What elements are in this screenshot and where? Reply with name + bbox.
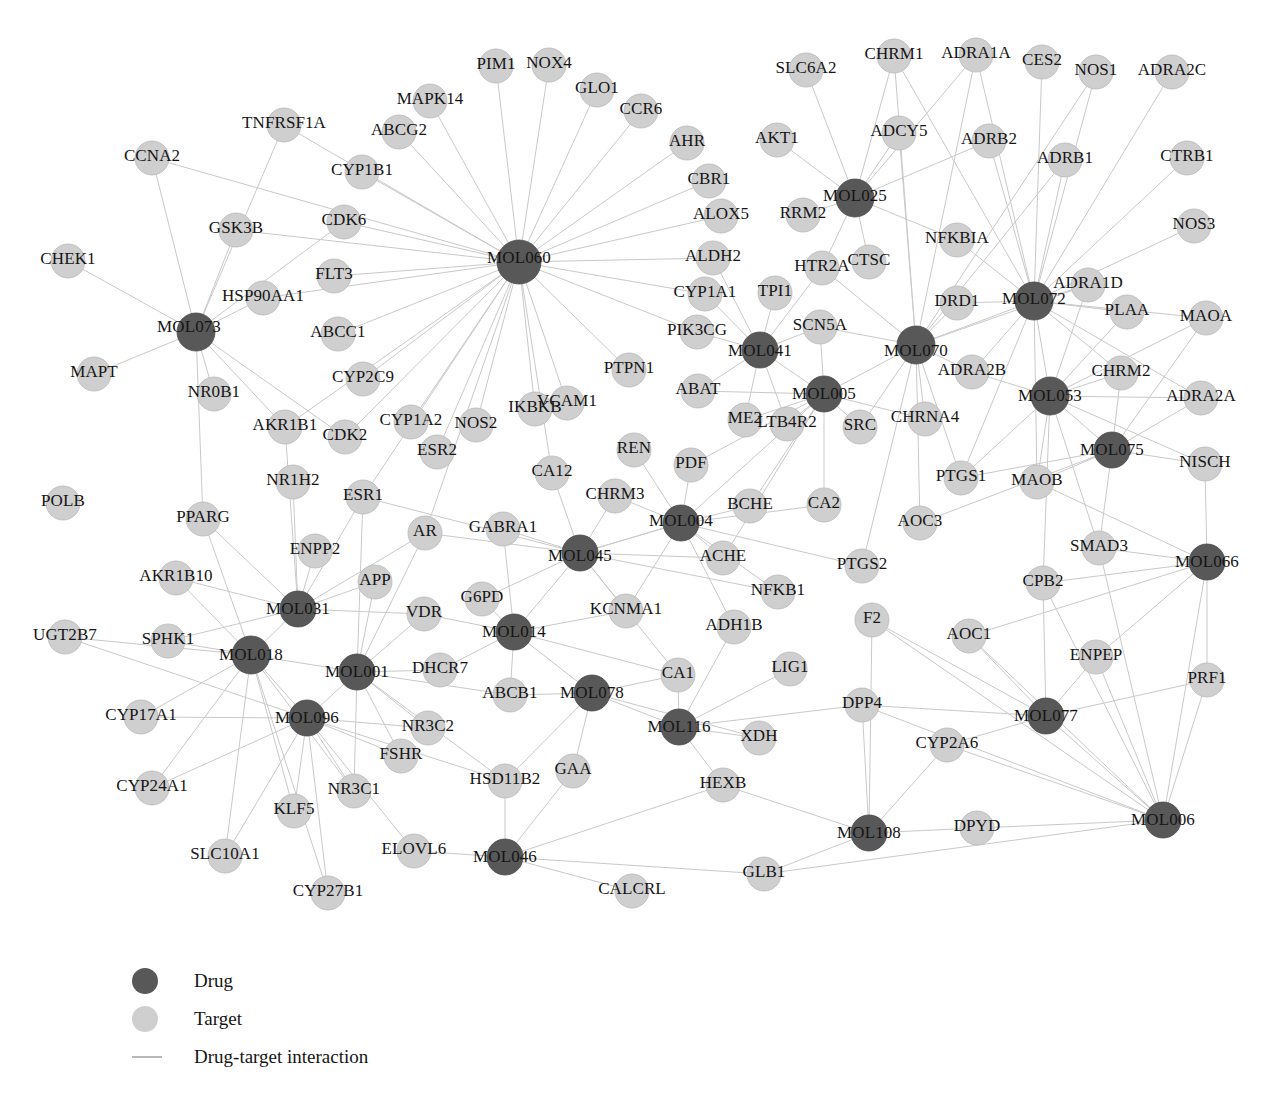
target-node-ADRB2[interactable] [972, 124, 1006, 158]
target-node-HEXB[interactable] [706, 768, 740, 802]
target-node-NOS2[interactable] [459, 408, 493, 442]
target-node-ADRA1D[interactable] [1071, 268, 1105, 302]
drug-node-MOL078[interactable] [574, 675, 610, 711]
target-node-ADRA2A[interactable] [1184, 381, 1218, 415]
target-node-ENPP2[interactable] [298, 534, 332, 568]
drug-node-MOL073[interactable] [177, 313, 215, 351]
drug-node-MOL077[interactable] [1028, 698, 1064, 734]
target-node-CYP24A1[interactable] [135, 771, 169, 805]
target-node-MAOB[interactable] [1020, 465, 1054, 499]
drug-node-MOL116[interactable] [661, 709, 697, 745]
target-node-CCNA2[interactable] [135, 141, 169, 175]
target-node-G6PD[interactable] [465, 582, 499, 616]
target-node-CYP2A6[interactable] [930, 728, 964, 762]
target-node-CYP27B1[interactable] [311, 876, 345, 910]
target-node-AR[interactable] [408, 516, 442, 550]
target-node-RRM2[interactable] [786, 198, 820, 232]
drug-node-MOL108[interactable] [851, 815, 887, 851]
target-node-SMAD3[interactable] [1082, 531, 1116, 565]
target-node-MAPK14[interactable] [413, 84, 447, 118]
drug-node-MOL006[interactable] [1145, 802, 1181, 838]
drug-node-MOL045[interactable] [562, 535, 598, 571]
target-node-PIM1[interactable] [479, 49, 513, 83]
target-node-DPYD[interactable] [960, 811, 994, 845]
target-node-ADRB1[interactable] [1048, 143, 1082, 177]
target-node-POLB[interactable] [46, 486, 80, 520]
drug-node-MOL075[interactable] [1094, 432, 1130, 468]
target-node-VDR[interactable] [407, 597, 441, 631]
target-node-ACHE[interactable] [706, 541, 740, 575]
target-node-CHRM1[interactable] [877, 39, 911, 73]
target-node-PDF[interactable] [674, 448, 708, 482]
target-node-LTB4R2[interactable] [770, 407, 804, 441]
target-node-ESR2[interactable] [420, 435, 454, 469]
target-node-CTRB1[interactable] [1170, 141, 1204, 175]
target-node-ALDH2[interactable] [696, 241, 730, 275]
target-node-CALCRL[interactable] [615, 874, 649, 908]
target-node-GAA[interactable] [556, 754, 590, 788]
target-node-ESR1[interactable] [346, 480, 380, 514]
target-node-ME2[interactable] [728, 403, 762, 437]
target-node-CYP17A1[interactable] [124, 700, 158, 734]
target-node-FSHR[interactable] [384, 739, 418, 773]
target-node-PTGS2[interactable] [845, 549, 879, 583]
target-node-XDH[interactable] [742, 721, 776, 755]
drug-node-MOL060[interactable] [497, 240, 541, 284]
target-node-DRD1[interactable] [940, 286, 974, 320]
target-node-CES2[interactable] [1025, 45, 1059, 79]
target-node-ADRA2B[interactable] [955, 355, 989, 389]
target-node-CYP1B1[interactable] [345, 155, 379, 189]
drug-node-MOL096[interactable] [289, 700, 325, 736]
target-node-F2[interactable] [855, 603, 889, 637]
target-node-PPARG[interactable] [186, 502, 220, 536]
target-node-MAPT[interactable] [77, 357, 111, 391]
target-node-KCNMA1[interactable] [609, 594, 643, 628]
target-node-AKR1B10[interactable] [159, 561, 193, 595]
target-node-CA12[interactable] [535, 456, 569, 490]
target-node-FLT3[interactable] [317, 259, 351, 293]
target-node-SLC6A2[interactable] [789, 53, 823, 87]
drug-node-MOL066[interactable] [1189, 544, 1225, 580]
target-node-ADH1B[interactable] [717, 610, 751, 644]
target-node-CYP1A1[interactable] [688, 277, 722, 311]
drug-node-MOL070[interactable] [897, 326, 935, 364]
drug-node-MOL031[interactable] [280, 591, 316, 627]
target-node-KLF5[interactable] [277, 794, 311, 828]
target-node-NOS3[interactable] [1177, 209, 1211, 243]
target-node-ABCG2[interactable] [382, 115, 416, 149]
target-node-NR1H2[interactable] [276, 465, 310, 499]
target-node-DPP4[interactable] [845, 688, 879, 722]
target-node-ADRA1A[interactable] [959, 38, 993, 72]
target-node-HSP90AA1[interactable] [246, 281, 280, 315]
target-node-ABCC1[interactable] [321, 317, 355, 351]
target-node-BCHE[interactable] [733, 489, 767, 523]
target-node-CDK6[interactable] [327, 205, 361, 239]
target-node-CHRM2[interactable] [1104, 356, 1138, 390]
target-node-NR0B1[interactable] [197, 377, 231, 411]
target-node-PTPN1[interactable] [612, 353, 646, 387]
target-node-ELOVL6[interactable] [397, 834, 431, 868]
target-node-NISCH[interactable] [1188, 447, 1222, 481]
target-node-TPI1[interactable] [758, 276, 792, 310]
target-node-PLAA[interactable] [1110, 295, 1144, 329]
target-node-GLO1[interactable] [580, 73, 614, 107]
target-node-ABCB1[interactable] [493, 678, 527, 712]
target-node-NOS1[interactable] [1079, 55, 1113, 89]
target-node-ADRA2C[interactable] [1155, 55, 1189, 89]
target-node-NOX4[interactable] [532, 48, 566, 82]
target-node-AKT1[interactable] [760, 123, 794, 157]
target-node-NFKB1[interactable] [761, 575, 795, 609]
target-node-SRC[interactable] [843, 410, 877, 444]
target-node-CCR6[interactable] [624, 94, 658, 128]
target-node-MAOA[interactable] [1189, 301, 1223, 335]
target-node-TNFRSF1A[interactable] [267, 108, 301, 142]
target-node-HTR2A[interactable] [805, 251, 839, 285]
target-node-CPB2[interactable] [1026, 566, 1060, 600]
target-node-SLC10A1[interactable] [208, 839, 242, 873]
target-node-ALOX5[interactable] [704, 199, 738, 233]
drug-node-MOL046[interactable] [487, 839, 523, 875]
target-node-CHEK1[interactable] [51, 244, 85, 278]
target-node-CYP2C9[interactable] [346, 362, 380, 396]
drug-node-MOL041[interactable] [742, 332, 778, 368]
target-node-UGT2B7[interactable] [48, 620, 82, 654]
